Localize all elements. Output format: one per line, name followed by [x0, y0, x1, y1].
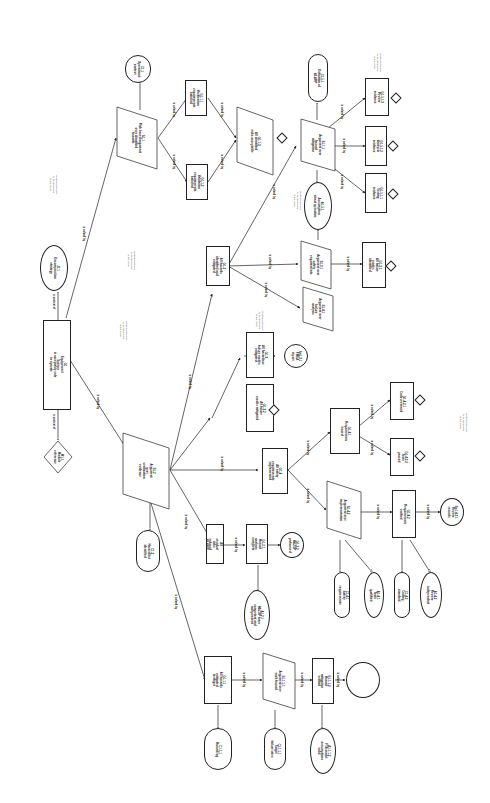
goal-node-g33[interactable]: G1.5.1.1 Testing evidence — [365, 173, 387, 213]
edge-label-solved: is solved by — [272, 184, 275, 199]
solution-node-sn4[interactable] — [346, 662, 380, 698]
edge-label-solved: is solved by — [300, 672, 303, 687]
solution-node-sn1[interactable]: Sn1.3.1 FMEA report — [284, 344, 308, 368]
strategy-node-s1[interactable]: S1.1 Risk based argument over identified… — [116, 106, 158, 170]
solution-label: G1.2.2 HAZOP performed — [287, 538, 297, 553]
edge-label-solved: is solved by — [342, 138, 345, 153]
context-label: C1.1 Operational context — [133, 61, 143, 78]
context-node-c5[interactable]: C1.4.2 Coding standard — [394, 572, 410, 618]
annotation-note: Undeveloped goal to be developed in the … — [459, 413, 468, 432]
edge-label-solved: is solved by — [306, 488, 309, 503]
context-label: C1.2 Hazard list identified — [143, 543, 153, 558]
goal-label: G1.4 All safety requirements implemented — [268, 461, 282, 480]
goal-node-g23[interactable]: G1.4 All safety requirements implemented — [262, 448, 288, 494]
goal-label: G1.5 All residual risks reduced ALARP — [206, 536, 224, 552]
goal-node-g54[interactable]: G1.4.2.2 Tests passed — [390, 438, 414, 476]
edge-label-solved: is solved by — [370, 404, 373, 419]
context-node-c3[interactable]: C1.5.1 Definition of ALARP — [308, 54, 328, 102]
annotation-note: Undeveloped goal to be developed in the … — [373, 53, 382, 72]
strategy-node-s6[interactable]: S1.1.1 Argument over hazard mitigation — [300, 118, 336, 172]
goal-node-g32[interactable]: G1.5.1.2 Analysis evidence — [365, 126, 387, 166]
strategy-label: S1.1.1 Argument over hazard mitigation — [311, 134, 325, 155]
annotation-note: Undeveloped goal to be developed in the … — [49, 175, 58, 194]
context-label: C1.1.1 Hazard log — [215, 741, 222, 756]
context-node-c7[interactable]: C1.1.1 Hazard log — [204, 728, 232, 770]
goal-node-g72[interactable]: G1.1.1.2 Hazard mitigation verified — [312, 658, 334, 704]
strategy-node-s2[interactable]: S1.2 Argument over verification evidence — [122, 432, 170, 510]
goal-label: G1.4.2 Requirements verified — [399, 504, 409, 524]
goal-node-g1[interactable]: G1 Equipment / System is acceptably safe… — [43, 320, 71, 410]
strategy-label: S1.2 Argument over verification evidence — [137, 463, 154, 479]
edge-label-solved: is solved by — [340, 174, 343, 189]
strategy-label: S1.1 Risk based argument over identified… — [130, 123, 144, 153]
assumption-label: A1.1.1.2 FTA model assumptions valid — [316, 742, 330, 761]
goal-label: G1.5.1.3 Review evidence — [372, 91, 382, 104]
goal-node-g71[interactable]: G1.1.1 All hazards mitigated to target — [204, 656, 232, 704]
goal-label: G1.5.1.1 Testing evidence — [371, 187, 381, 200]
assumption-label: A1.5.1 Assumption about operation — [313, 195, 323, 218]
goal-node-g13[interactable]: G1.1.3 All identified risks acceptable — [236, 106, 274, 176]
edge-label-solved: is solved by — [174, 594, 177, 609]
module-node-m1[interactable]: M1.1 Module reference — [43, 440, 73, 474]
edge-label-solved: is solved by — [220, 456, 223, 471]
assumption-label: A1.4.1 Tools qualified — [369, 589, 379, 601]
strategy-label: S1.4.1 Argument over failure analysis — [311, 298, 325, 319]
strategy-label: S1.1.1.1 Argument over each hazard — [274, 670, 284, 691]
assumption-node-a1[interactable]: A1.5.1 Assumption about operation — [304, 182, 332, 230]
edge-label-solved: is solved by — [336, 672, 339, 687]
context-node-c1[interactable]: C1.1 Operational context — [125, 55, 151, 83]
goal-node-g61[interactable]: G1.2.1 Hazard analysis complete — [246, 524, 268, 564]
edge-label-solved: is solved by — [184, 514, 187, 529]
edge-label-solved: is solved by — [376, 504, 379, 519]
assumption-node-a3[interactable]: A1.4.2 Review independent — [420, 572, 442, 618]
goal-node-g22[interactable]: G1.3 All hazardous failure modes mitigat… — [246, 332, 274, 378]
edge-label-solved: is solved by — [188, 374, 191, 389]
goal-node-g11[interactable]: G1.1.1 Verification requirements satisfi… — [185, 80, 207, 116]
goal-node-g51[interactable]: G1.4.1 Requirements traced — [330, 408, 360, 454]
edge-label-context: is context of — [52, 294, 55, 309]
edge-label-solved: is solved by — [82, 226, 85, 241]
strategy-node-s8[interactable]: S1.1.1.1 Argument over each hazard — [262, 652, 296, 710]
strategy-label: S1.3.1 Argument over safety requirements — [309, 254, 323, 275]
assumption-label: A1.2.1 HAZOP team competent and independ… — [250, 604, 264, 625]
context-node-c4[interactable]: C1.4.1 Safety requirements — [334, 572, 350, 618]
assumption-node-a2[interactable]: A1.4.1 Tools qualified — [364, 572, 384, 618]
edge-label-solved: is solved by — [220, 102, 223, 117]
goal-node-g53[interactable]: G1.4.2.1 Code reviewed — [390, 382, 414, 420]
goal-label: G1.1.1.2 Hazard mitigation verified — [316, 674, 330, 688]
edge-label-solved: is solved by — [340, 104, 343, 119]
assumption-node-a4[interactable]: A1.2.1 HAZOP team competent and independ… — [244, 590, 270, 640]
annotation-note: Undeveloped goal to be developed in the … — [119, 321, 128, 340]
context-node-c8[interactable]: C1.1.1.1 Target failure rates — [264, 728, 286, 770]
goal-label: G1.3 All hazardous failure modes mitigat… — [253, 345, 267, 365]
strategy-node-s4[interactable]: S1.4.1 Argument over failure analysis — [302, 286, 334, 332]
context-label: C1.1.1.1 Target failure rates — [270, 740, 280, 757]
edge-label-solved: is solved by — [264, 282, 267, 297]
goal-node-g52[interactable]: G1.4.2 Requirements verified — [392, 490, 416, 538]
assumption-label: A1.4.2 Review independent — [426, 586, 436, 604]
assumption-node-a5[interactable]: A1.1.1.2 FTA model assumptions valid — [310, 728, 336, 774]
goal-label: G1.3.1 All failure modes identified — [367, 254, 381, 276]
justification-label: J1.1 Decomposition strategy — [49, 257, 59, 279]
context-label: C1.5.1 Definition of ALARP — [313, 69, 323, 87]
strategy-node-s3[interactable]: S1.3.1 Argument over safety requirements — [300, 240, 332, 290]
goal-node-g31[interactable]: G1.5.1.3 Review evidence — [365, 78, 389, 116]
solution-node-sn2[interactable]: Sn1.4.2.1 Review records — [440, 498, 464, 526]
goal-node-g41[interactable]: G1.3.1 All failure modes identified — [362, 242, 386, 288]
goal-label: G1.1.2 Validation requirements satisfied — [190, 172, 204, 191]
goal-node-g12[interactable]: G1.1.2 Validation requirements satisfied — [186, 164, 208, 200]
goal-node-g24[interactable]: G1.5 All residual risks reduced ALARP — [206, 524, 224, 564]
goal-label: G1.4.2.1 Code reviewed — [399, 390, 406, 411]
annotation-note: Undeveloped goal to be developed in the … — [255, 311, 264, 330]
solution-node-sn3[interactable]: G1.2.2 HAZOP performed — [280, 532, 304, 558]
strategy-node-s7[interactable]: S1.4.2 Argument over implementation — [326, 480, 362, 540]
goal-label: G1.2.1 Hazard analysis complete — [250, 534, 264, 554]
goal-label: G1.5.1.2 Analysis evidence — [371, 140, 381, 153]
context-node-c2[interactable]: C1.2 Hazard list identified — [136, 530, 160, 572]
goal-node-g21[interactable]: G1.2 All hazards identified and mitigate… — [206, 246, 230, 286]
goal-label: G1.1.1 All hazards mitigated to target — [211, 672, 225, 688]
context-label: C1.4.2 Coding standard — [397, 589, 407, 602]
edge-label-context: is context of — [52, 414, 55, 429]
justification-node-j1[interactable]: J1.1 Decomposition strategy — [40, 245, 68, 291]
goal-label: G1.4.1 Requirements traced — [340, 421, 350, 441]
